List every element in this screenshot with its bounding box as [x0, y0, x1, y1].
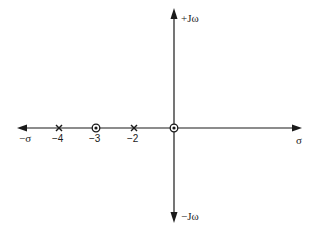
- circle-icon: [170, 124, 178, 132]
- real-positive-label: σ: [296, 134, 302, 146]
- tick-label: −3: [89, 133, 101, 144]
- imag-negative-label: −Jω: [181, 210, 199, 222]
- imag-positive-label: +Jω: [181, 12, 199, 24]
- down-arrow-icon: [171, 212, 178, 223]
- s-plane-diagram: +Jω −Jω σ −σ −4 −3 −2: [0, 0, 329, 236]
- imaginary-axis: [171, 8, 178, 223]
- real-negative-label: −σ: [19, 132, 31, 144]
- circle-icon: [92, 124, 100, 132]
- right-arrow-icon: [292, 125, 302, 132]
- tick-label: −2: [127, 133, 139, 144]
- up-arrow-icon: [171, 8, 178, 19]
- left-arrow-icon: [17, 125, 27, 132]
- zero-marker: −3: [89, 124, 101, 144]
- tick-label: −4: [52, 133, 64, 144]
- zero-marker-origin: [170, 124, 178, 132]
